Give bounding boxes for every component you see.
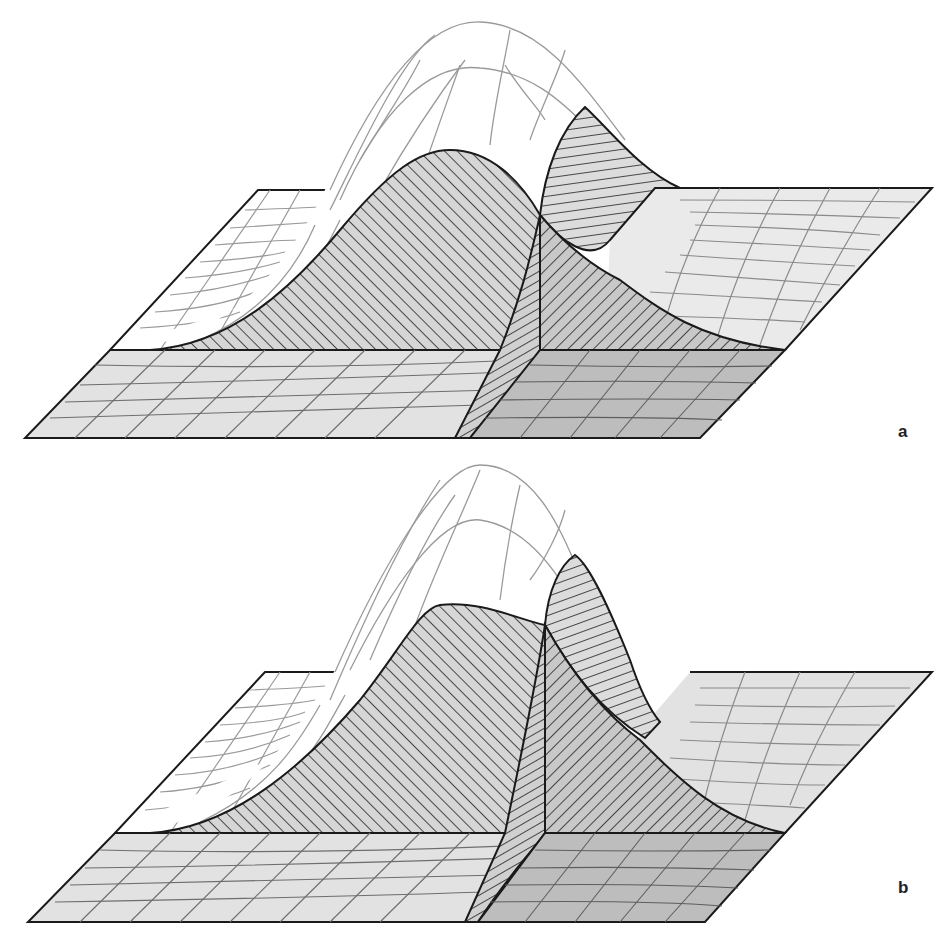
surface-plot-b: [0, 460, 940, 934]
panel-label-b: b: [898, 878, 908, 898]
panel-b: b: [0, 460, 940, 934]
front-left-plane: [28, 833, 545, 922]
surface-plot-a: [0, 0, 940, 460]
panel-label-a: a: [898, 422, 907, 442]
panel-a: a: [0, 0, 940, 460]
